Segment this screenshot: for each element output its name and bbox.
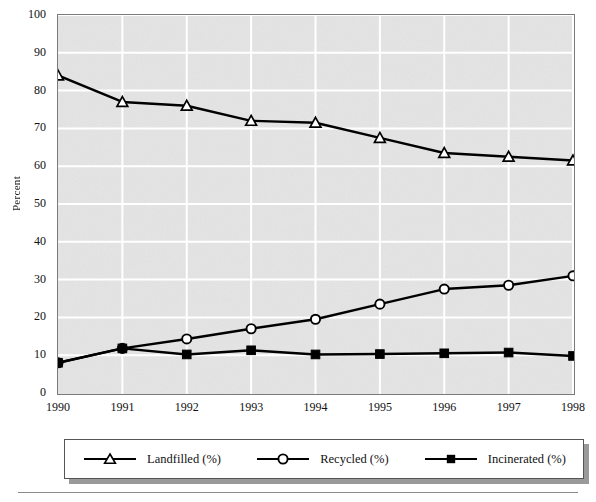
x-axis-tick-1991: 1991	[92, 400, 152, 415]
y-axis-tick-30: 30	[10, 272, 46, 287]
marker-recycled-1997	[504, 281, 513, 290]
marker-recycled-1993	[247, 324, 256, 333]
marker-recycled-1994	[311, 315, 320, 324]
x-axis-tick-1996: 1996	[414, 400, 474, 415]
legend-marker-circle-open-icon	[255, 451, 311, 467]
marker-incinerated-1992	[182, 350, 191, 359]
legend-marker-triangle-open-icon	[82, 451, 138, 467]
legend-label: Incinerated (%)	[488, 452, 566, 467]
marker-recycled-1995	[375, 300, 384, 309]
y-axis-tick-90: 90	[10, 45, 46, 60]
plot-area	[57, 14, 575, 395]
y-axis-tick-10: 10	[10, 347, 46, 362]
legend-marker-square-filled-icon	[423, 451, 479, 467]
legend-label: Landfilled (%)	[147, 452, 221, 467]
x-axis-tick-1992: 1992	[157, 400, 217, 415]
legend-item-incinerated[interactable]: Incinerated (%)	[423, 451, 566, 467]
marker-incinerated-1995	[376, 350, 385, 359]
chart-legend: Landfilled (%)Recycled (%)Incinerated (%…	[64, 439, 584, 479]
plot-svg	[58, 15, 574, 394]
marker-incinerated-1996	[440, 349, 449, 358]
x-axis-tick-1994: 1994	[286, 400, 346, 415]
y-axis-tick-40: 40	[10, 234, 46, 249]
marker-incinerated-1990	[58, 358, 62, 367]
marker-incinerated-1991	[118, 344, 127, 353]
x-axis-tick-1997: 1997	[479, 400, 539, 415]
y-axis-tick-60: 60	[10, 158, 46, 173]
y-axis-tick-80: 80	[10, 83, 46, 98]
footer-rule	[18, 492, 578, 493]
marker-recycled-1992	[182, 334, 191, 343]
x-axis-tick-1993: 1993	[221, 400, 281, 415]
y-axis-tick-70: 70	[10, 120, 46, 135]
y-axis-tick-100: 100	[10, 7, 46, 22]
y-axis-tick-0: 0	[10, 385, 46, 400]
marker-incinerated-1997	[504, 348, 513, 357]
y-axis-tick-20: 20	[10, 309, 46, 324]
legend-item-landfilled[interactable]: Landfilled (%)	[82, 451, 221, 467]
line-chart: Percent 1009080706050403020100 199019911…	[0, 0, 596, 502]
marker-recycled-1998	[568, 271, 574, 280]
x-axis-tick-1990: 1990	[28, 400, 88, 415]
x-axis-tick-1995: 1995	[350, 400, 410, 415]
legend-item-recycled[interactable]: Recycled (%)	[255, 451, 388, 467]
y-axis-tick-50: 50	[10, 196, 46, 211]
legend-label: Recycled (%)	[320, 452, 388, 467]
marker-recycled-1996	[440, 284, 449, 293]
marker-incinerated-1998	[569, 352, 574, 361]
marker-incinerated-1994	[311, 350, 320, 359]
x-axis-tick-1998: 1998	[543, 400, 596, 415]
marker-incinerated-1993	[247, 346, 256, 355]
